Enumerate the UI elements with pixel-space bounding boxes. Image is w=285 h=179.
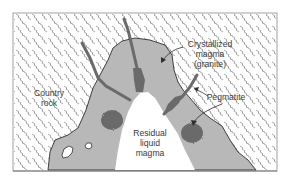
label-country-rock-line2: rock	[41, 98, 58, 108]
label-residual-line2: liquid	[140, 138, 160, 148]
label-residual-line3: magma	[136, 148, 165, 158]
magma-crystallization-diagram: Country rock Crystallized magma (granite…	[0, 0, 285, 179]
pegmatite-pod-right	[181, 123, 203, 143]
pegmatite-pod-left	[101, 110, 123, 130]
label-crystallized-line1: Crystallized	[188, 39, 233, 49]
label-crystallized-line2: magma	[196, 49, 225, 59]
xenolith-2	[85, 143, 92, 149]
label-country-rock-line1: Country	[34, 88, 65, 98]
label-crystallized-line3: (granite)	[194, 59, 226, 69]
label-residual-line1: Residual	[133, 128, 167, 138]
label-pegmatite: Pegmatite	[207, 92, 246, 102]
